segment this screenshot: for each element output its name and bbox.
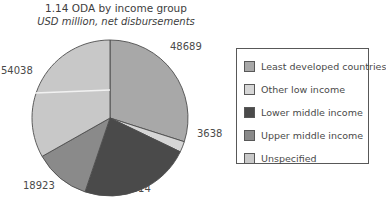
legend-list: Least developed countriesOther low incom…: [244, 55, 364, 170]
legend-item[interactable]: Upper middle income: [244, 124, 364, 147]
legend-item-label: Least developed countries: [261, 61, 386, 72]
chart-title: 1.14 ODA by income group: [0, 2, 232, 15]
chart-title-block: 1.14 ODA by income group USD million, ne…: [0, 2, 232, 28]
legend-item[interactable]: Unspecified: [244, 147, 364, 170]
slice-label-upper-middle-income: 18923: [23, 180, 55, 191]
slice-label-other-low-income: 3638: [197, 128, 222, 139]
legend-item[interactable]: Least developed countries: [244, 55, 364, 78]
legend-swatch-icon: [244, 107, 255, 118]
legend-item-label: Unspecified: [261, 153, 317, 164]
legend-item-label: Lower middle income: [261, 107, 363, 118]
pie-plot-area: 48689 3638 37514 18923 54038: [0, 28, 232, 204]
legend-swatch-icon: [244, 61, 255, 72]
legend: Least developed countriesOther low incom…: [236, 48, 369, 164]
pie-slice-group: [32, 40, 188, 196]
legend-swatch-icon: [244, 130, 255, 141]
legend-swatch-icon: [244, 153, 255, 164]
legend-item-label: Upper middle income: [261, 130, 363, 141]
chart-subtitle: USD million, net disbursements: [0, 15, 232, 28]
slice-label-lower-middle-income: 37514: [119, 183, 151, 194]
slice-label-least-developed-countries: 48689: [170, 41, 202, 52]
legend-item[interactable]: Other low income: [244, 78, 364, 101]
legend-item-label: Other low income: [261, 84, 345, 95]
legend-item[interactable]: Lower middle income: [244, 101, 364, 124]
slice-label-unspecified: 54038: [1, 65, 33, 76]
pie-svg: [0, 28, 232, 204]
legend-swatch-icon: [244, 84, 255, 95]
